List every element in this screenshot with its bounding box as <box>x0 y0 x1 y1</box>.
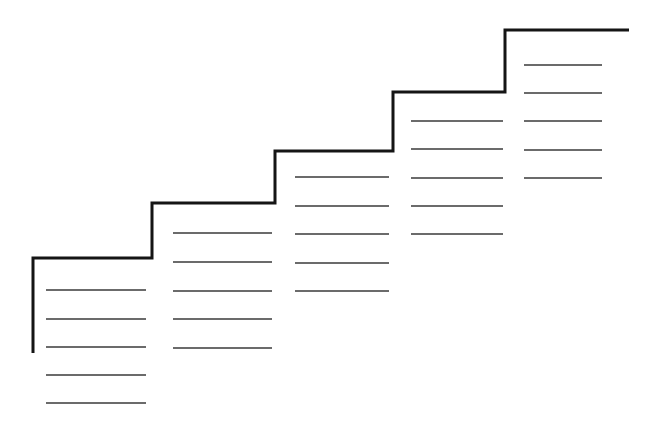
staircase-diagram <box>0 0 661 425</box>
background <box>0 0 661 425</box>
